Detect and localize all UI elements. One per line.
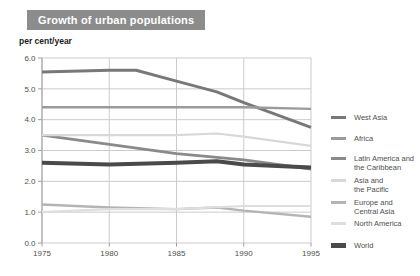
legend-swatch-west-asia bbox=[331, 116, 346, 119]
legend-item-europe-central-asia: Europe and Central Asia bbox=[331, 198, 394, 216]
legend-label-world: World bbox=[354, 241, 373, 250]
chart-legend: West Asia Africa Latin America and the C… bbox=[331, 0, 420, 276]
y-tick-label: 1.0 bbox=[24, 208, 36, 217]
legend-label-north-america: North America bbox=[354, 219, 402, 228]
y-tick-label: 2.0 bbox=[24, 177, 36, 186]
x-tick-label: 1980 bbox=[100, 249, 118, 258]
y-tick-label: 4.0 bbox=[24, 115, 36, 124]
legend-swatch-asia-pacific bbox=[331, 179, 346, 182]
y-tick-label: 3.0 bbox=[24, 146, 36, 155]
legend-item-west-asia: West Asia bbox=[331, 113, 387, 122]
legend-swatch-europe-central-asia bbox=[331, 201, 346, 204]
legend-swatch-latin-america bbox=[331, 157, 346, 160]
legend-item-latin-america: Latin America and the Caribbean bbox=[331, 154, 414, 172]
chart-page: Growth of urban populations per cent/yea… bbox=[0, 0, 420, 276]
x-tick-label: 1985 bbox=[168, 249, 186, 258]
legend-label-west-asia: West Asia bbox=[354, 113, 387, 122]
legend-swatch-north-america bbox=[331, 222, 346, 225]
x-tick-label: 1990 bbox=[235, 249, 253, 258]
legend-item-africa: Africa bbox=[331, 134, 373, 143]
y-tick-label: 6.0 bbox=[24, 54, 36, 63]
legend-item-asia-pacific: Asia and the Pacific bbox=[331, 176, 389, 194]
legend-label-africa: Africa bbox=[354, 134, 373, 143]
legend-item-north-america: North America bbox=[331, 219, 402, 228]
x-tick-label: 1995 bbox=[302, 249, 320, 258]
legend-label-europe-central-asia: Europe and Central Asia bbox=[354, 198, 394, 216]
y-tick-label: 0.0 bbox=[24, 239, 36, 248]
y-tick-label: 5.0 bbox=[24, 85, 36, 94]
legend-swatch-africa bbox=[331, 137, 346, 140]
x-tick-label: 1975 bbox=[33, 249, 51, 258]
legend-label-asia-pacific: Asia and the Pacific bbox=[354, 176, 389, 194]
legend-item-world: World bbox=[331, 241, 373, 250]
legend-label-latin-america: Latin America and the Caribbean bbox=[354, 154, 414, 172]
legend-swatch-world bbox=[331, 243, 346, 248]
